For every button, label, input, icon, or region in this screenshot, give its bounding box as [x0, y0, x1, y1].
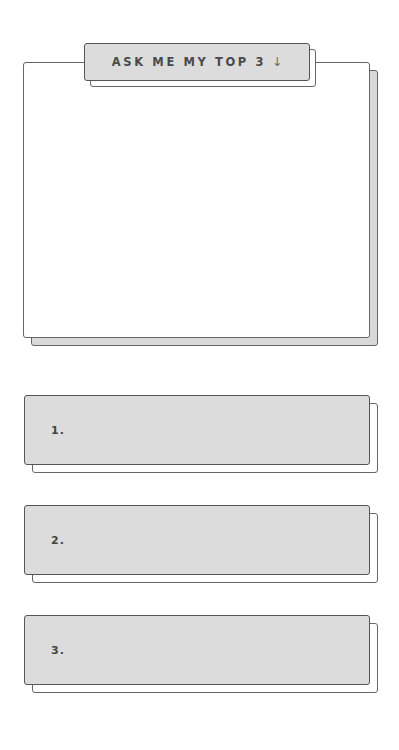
list-item-3[interactable]: 3. [24, 615, 370, 685]
arrow-down-icon: ↓ [272, 55, 282, 69]
list-item-2[interactable]: 2. [24, 505, 370, 575]
list-item-number: 2. [51, 534, 65, 547]
list-item-1[interactable]: 1. [24, 395, 370, 465]
ask-top-3-button[interactable]: ASK ME MY TOP 3 ↓ [84, 43, 310, 81]
ask-top-3-label: ASK ME MY TOP 3 [112, 55, 266, 69]
answer-box[interactable] [23, 62, 370, 338]
list-item-number: 1. [51, 424, 65, 437]
list-item-number: 3. [51, 644, 65, 657]
